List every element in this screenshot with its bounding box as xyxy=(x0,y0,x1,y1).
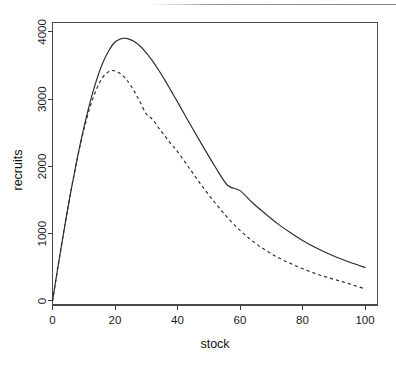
x-tick-label: 20 xyxy=(109,314,122,326)
plot-frame-box xyxy=(53,23,378,306)
x-tick-label: 100 xyxy=(355,314,374,326)
x-tick-label: 60 xyxy=(234,314,247,326)
y-tick-label: 3000 xyxy=(37,86,49,112)
y-tick-label: 1000 xyxy=(37,221,49,247)
x-axis-title: stock xyxy=(200,337,230,351)
chart-canvas: 01000200030004000 020406080100 stock rec… xyxy=(0,0,396,366)
y-tick-label: 0 xyxy=(37,298,49,304)
x-tick-label: 80 xyxy=(296,314,309,326)
y-axis-ticks: 01000200030004000 xyxy=(37,19,53,304)
series-dashed-curve xyxy=(53,70,366,300)
x-axis-ticks: 020406080100 xyxy=(49,305,374,326)
y-tick-label: 2000 xyxy=(37,154,49,180)
x-tick-label: 40 xyxy=(171,314,184,326)
y-axis-title: recruits xyxy=(11,150,25,191)
stock-recruitment-chart: 01000200030004000 020406080100 stock rec… xyxy=(0,0,396,366)
x-tick-label: 0 xyxy=(49,314,55,326)
series-solid-curve xyxy=(53,38,366,301)
y-tick-label: 4000 xyxy=(37,19,49,45)
